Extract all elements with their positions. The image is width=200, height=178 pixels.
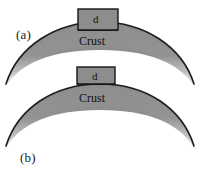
panel-label-a: (a)	[16, 27, 31, 43]
d-box-label-a: d	[93, 13, 99, 25]
crust-label-b: Crust	[79, 91, 105, 106]
crust-diagram-figure: (a) d Crust d Crust (b)	[0, 0, 200, 178]
crust-label-a: Crust	[79, 34, 105, 49]
d-box-label-b: d	[92, 70, 98, 82]
panel-label-b: (b)	[20, 150, 36, 166]
